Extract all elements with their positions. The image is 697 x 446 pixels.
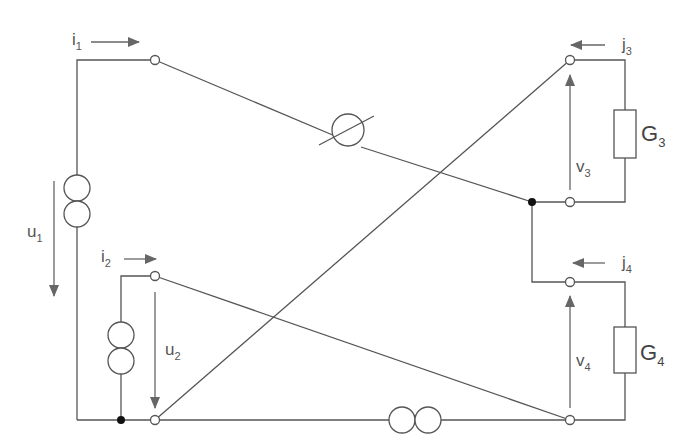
variable-element-icon — [319, 114, 374, 146]
label-i1: i1 — [72, 30, 82, 52]
circuit-svg: i1 i2 j3 j4 u1 u2 v3 v4 G3 G4 — [0, 0, 697, 446]
terminal-2 — [151, 272, 160, 281]
label-v4: v4 — [576, 351, 591, 373]
junction-dot-bottom-left — [117, 416, 125, 424]
resistor-G3-icon — [614, 110, 636, 158]
junction-dot-right — [528, 198, 536, 206]
label-G3: G3 — [641, 121, 665, 150]
terminal-2-return — [151, 416, 160, 425]
label-G4: G4 — [640, 340, 664, 369]
terminal-1 — [151, 56, 160, 65]
diagonal-wire-3 — [155, 276, 570, 420]
terminal-3 — [566, 56, 575, 65]
label-j4: j4 — [621, 253, 632, 275]
label-u2: u2 — [165, 340, 181, 362]
circuit-diagram: i1 i2 j3 j4 u1 u2 v3 v4 G3 G4 — [0, 0, 697, 446]
inner-left-wire — [121, 276, 155, 420]
source-bottom-icon — [389, 407, 441, 433]
label-v3: v3 — [576, 157, 591, 179]
terminal-3-return — [566, 198, 575, 207]
label-i2: i2 — [101, 247, 111, 269]
source-u2-icon — [108, 322, 134, 374]
source-u1-icon — [64, 175, 90, 227]
resistor-G4-icon — [614, 327, 636, 373]
port-connector-wire — [532, 202, 570, 282]
diagonal-wire-2 — [155, 60, 570, 420]
terminal-4 — [566, 278, 575, 287]
terminal-4-return — [566, 416, 575, 425]
label-j3: j3 — [621, 35, 632, 57]
label-u1: u1 — [27, 222, 43, 244]
